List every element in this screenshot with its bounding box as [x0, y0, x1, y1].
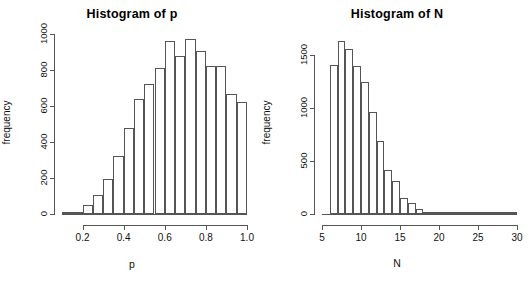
- histogram-bar: [113, 156, 123, 214]
- y-axis-tick-label: 0: [298, 197, 309, 231]
- x-axis-tick: [400, 225, 401, 230]
- histogram-bar: [155, 68, 165, 214]
- y-axis-tick: [50, 142, 55, 143]
- x-axis-tick: [247, 225, 248, 230]
- y-axis-tick: [310, 161, 315, 162]
- x-axis-tick: [439, 225, 440, 230]
- baseline: [322, 214, 517, 215]
- y-axis-tick-label: 500: [298, 144, 309, 178]
- histogram-bar: [206, 66, 216, 215]
- y-axis-title-2: frequency: [261, 83, 272, 163]
- bar-series-n: [322, 34, 517, 214]
- x-axis-tick: [478, 225, 479, 230]
- y-axis-tick-label: 1500: [298, 38, 309, 72]
- histogram-bar: [361, 82, 369, 214]
- histogram-bar: [392, 181, 400, 214]
- histogram-bar: [144, 84, 154, 215]
- histogram-bar: [185, 39, 195, 215]
- y-axis-tick: [50, 106, 55, 107]
- y-axis-tick-label: 400: [38, 125, 49, 159]
- histogram-bar: [165, 41, 175, 214]
- x-axis-line: [322, 225, 517, 226]
- histogram-bar: [384, 170, 392, 214]
- x-axis-tick-label: 0.2: [68, 232, 98, 243]
- x-axis-tick: [83, 225, 84, 230]
- baseline: [62, 214, 247, 215]
- histogram-bar: [369, 112, 377, 214]
- y-axis-tick: [310, 108, 315, 109]
- x-axis-tick-label: 30: [502, 232, 529, 243]
- plot-area-p: [62, 34, 247, 214]
- histogram-bar: [353, 66, 361, 214]
- y-axis-tick: [50, 34, 55, 35]
- y-axis-tick-label: 0: [38, 197, 49, 231]
- histogram-bar: [216, 66, 226, 214]
- x-axis-tick-label: 0.4: [109, 232, 139, 243]
- y-axis-tick-label: 200: [38, 161, 49, 195]
- figure-canvas: Histogram of p frequency 020040060080010…: [0, 0, 529, 281]
- x-axis-tick-label: 1.0: [232, 232, 262, 243]
- x-axis-title: p: [0, 258, 264, 270]
- histogram-bar: [377, 141, 385, 214]
- x-axis-tick-label: 0.8: [191, 232, 221, 243]
- histogram-bar: [338, 41, 346, 214]
- x-axis-tick-label: 25: [463, 232, 493, 243]
- y-axis-tick-label: 600: [38, 89, 49, 123]
- y-axis-title: frequency: [1, 83, 12, 163]
- page-title-2: Histogram of N: [265, 7, 529, 21]
- histogram-bar: [83, 205, 93, 214]
- chart-panel-histogram-of-n: Histogram of N frequency 050010001500510…: [265, 0, 529, 281]
- x-axis-tick: [322, 225, 323, 230]
- y-axis-tick: [50, 178, 55, 179]
- x-axis-tick: [361, 225, 362, 230]
- histogram-bar: [134, 99, 144, 214]
- y-axis-tick-label: 1000: [38, 17, 49, 51]
- histogram-bar: [175, 56, 185, 214]
- plot-area-n: [322, 34, 517, 214]
- histogram-bar: [196, 51, 206, 214]
- x-axis-tick-label: 5: [307, 232, 337, 243]
- y-axis-tick: [50, 214, 55, 215]
- x-axis-tick: [124, 225, 125, 230]
- y-axis-tick-label: 1000: [298, 91, 309, 125]
- y-axis-tick: [310, 214, 315, 215]
- x-axis-tick-label: 15: [385, 232, 415, 243]
- chart-panel-histogram-of-p: Histogram of p frequency 020040060080010…: [0, 0, 264, 281]
- y-axis-tick: [50, 70, 55, 71]
- x-axis-tick: [517, 225, 518, 230]
- y-axis-tick-label: 800: [38, 53, 49, 87]
- histogram-bar: [124, 128, 134, 214]
- histogram-bar: [226, 94, 236, 214]
- y-axis-line: [54, 34, 55, 214]
- x-axis-tick: [206, 225, 207, 230]
- y-axis-line: [314, 55, 315, 214]
- x-axis-title-2: N: [265, 257, 529, 269]
- y-axis-tick: [310, 55, 315, 56]
- histogram-bar: [103, 179, 113, 214]
- histogram-bar: [345, 49, 353, 214]
- bar-series-p: [62, 34, 247, 214]
- histogram-bar: [237, 102, 247, 214]
- x-axis-tick-label: 10: [346, 232, 376, 243]
- x-axis-tick-label: 0.6: [150, 232, 180, 243]
- histogram-bar: [400, 198, 408, 214]
- histogram-bar: [330, 65, 338, 214]
- x-axis-tick: [165, 225, 166, 230]
- histogram-bar: [408, 203, 416, 214]
- x-axis-tick-label: 20: [424, 232, 454, 243]
- histogram-bar: [93, 195, 103, 214]
